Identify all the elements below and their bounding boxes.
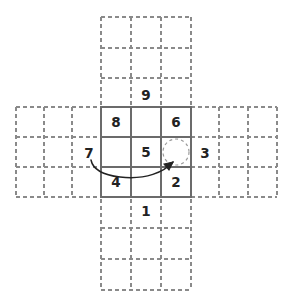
outside-label-3[interactable]: 3: [200, 145, 209, 161]
diagram-canvas: 8 6 5 4 2 9 7 3 1: [0, 0, 293, 307]
cube-net-diagram: 8 6 5 4 2 9 7 3 1: [0, 0, 293, 307]
outside-label-9[interactable]: 9: [141, 87, 150, 103]
outside-label-1[interactable]: 1: [141, 203, 150, 219]
empty-slot-circle[interactable]: [163, 139, 189, 165]
tile-5[interactable]: 5: [141, 144, 150, 160]
tile-2[interactable]: 2: [171, 174, 180, 190]
tile-6[interactable]: 6: [171, 114, 180, 130]
outside-label-7[interactable]: 7: [84, 145, 93, 161]
tile-8[interactable]: 8: [111, 114, 120, 130]
